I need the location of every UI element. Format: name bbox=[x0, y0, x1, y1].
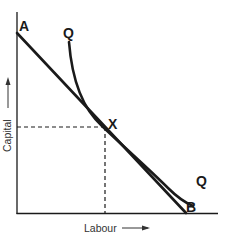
isoquant-curve-q bbox=[69, 42, 193, 206]
label-b: B bbox=[186, 199, 196, 215]
y-axis-arrowhead-icon bbox=[6, 77, 11, 85]
x-axis-arrowhead-icon bbox=[142, 226, 150, 231]
label-q-top: Q bbox=[63, 25, 74, 41]
isoquant-diagram: A Q X Q B Labour Capital bbox=[0, 0, 233, 241]
label-x: X bbox=[108, 116, 118, 132]
label-q-bottom: Q bbox=[196, 173, 207, 189]
isocost-line-ab bbox=[17, 33, 186, 213]
y-axis-label: Capital bbox=[1, 119, 13, 152]
label-a: A bbox=[19, 18, 29, 34]
x-axis-label: Labour bbox=[84, 222, 117, 234]
